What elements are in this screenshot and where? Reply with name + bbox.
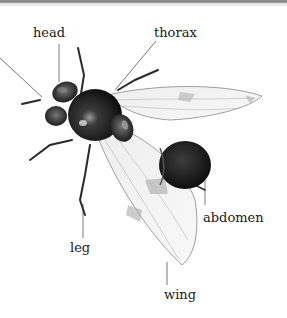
- eye-shape: [45, 106, 67, 126]
- label-head: head: [33, 26, 65, 39]
- label-leg: leg: [70, 241, 90, 254]
- label-thorax: thorax: [154, 26, 197, 39]
- fly-illustration: [0, 0, 287, 318]
- label-abdomen: abdomen: [203, 211, 264, 224]
- label-wing: wing: [164, 288, 196, 301]
- abdomen-shape: [159, 141, 211, 189]
